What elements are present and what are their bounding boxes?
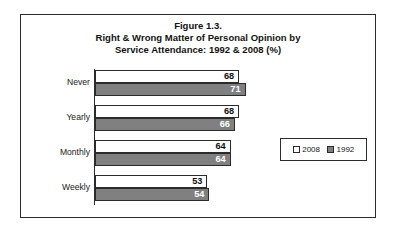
- figure-title-line-1: Figure 1.3.: [21, 20, 375, 32]
- gray-square-icon: [327, 146, 334, 153]
- bar-2008-never[interactable]: 68: [95, 70, 239, 83]
- bar-value-2008-yearly: 68: [224, 106, 234, 117]
- bar-1992-yearly[interactable]: 66: [95, 118, 235, 131]
- figure-frame: Figure 1.3. Right & Wrong Matter of Pers…: [20, 14, 376, 218]
- bar-value-1992-monthly: 64: [215, 154, 225, 165]
- legend-entry-1992[interactable]: 1992: [327, 145, 354, 154]
- figure-title-line-3: Service Attendance: 1992 & 2008 (%): [21, 44, 375, 56]
- figure-title-line-2: Right & Wrong Matter of Personal Opinion…: [21, 32, 375, 44]
- bar-value-1992-yearly: 66: [220, 119, 230, 130]
- category-label-monthly: Monthly: [29, 147, 90, 158]
- bar-2008-yearly[interactable]: 68: [95, 105, 239, 118]
- bar-1992-weekly[interactable]: 54: [95, 188, 209, 201]
- category-label-yearly: Yearly: [29, 112, 90, 123]
- bar-value-2008-never: 68: [224, 71, 234, 82]
- bar-group-yearly: Yearly 68 66: [29, 104, 369, 134]
- bar-value-2008-monthly: 64: [215, 141, 225, 152]
- figure-title: Figure 1.3. Right & Wrong Matter of Pers…: [21, 20, 375, 57]
- legend-label-2008: 2008: [302, 145, 320, 154]
- bar-value-2008-weekly: 53: [192, 176, 202, 187]
- bar-2008-weekly[interactable]: 53: [95, 175, 207, 188]
- bar-1992-never[interactable]: 71: [95, 83, 246, 96]
- bar-2008-monthly[interactable]: 64: [95, 140, 231, 153]
- category-label-weekly: Weekly: [29, 182, 90, 193]
- category-label-never: Never: [29, 77, 90, 88]
- legend-entry-2008[interactable]: 2008: [293, 145, 320, 154]
- chart-legend: 2008 1992: [280, 138, 367, 161]
- white-square-icon: [293, 146, 300, 153]
- legend-label-1992: 1992: [337, 145, 355, 154]
- bar-group-weekly: Weekly 53 54: [29, 174, 369, 204]
- bar-1992-monthly[interactable]: 64: [95, 153, 231, 166]
- bar-group-never: Never 68 71: [29, 69, 369, 99]
- bar-value-1992-never: 71: [230, 84, 240, 95]
- bar-value-1992-weekly: 54: [194, 189, 204, 200]
